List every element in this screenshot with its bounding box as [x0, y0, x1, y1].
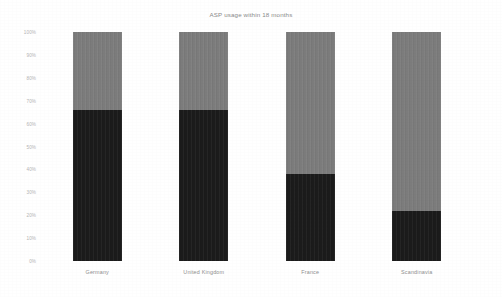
x-axis-category-label: Germany: [86, 269, 109, 275]
stacked-bar[interactable]: [73, 32, 122, 261]
x-axis-category-label: France: [301, 269, 319, 275]
chart-title: ASP usage within 18 months: [0, 11, 502, 18]
bar-segment-lower-segment[interactable]: [179, 110, 228, 261]
bar-segment-upper-segment[interactable]: [286, 32, 335, 174]
y-axis-tick-label: 40%: [27, 167, 37, 172]
y-axis-tick-label: 70%: [27, 98, 37, 103]
y-axis-tick-label: 60%: [27, 121, 37, 126]
y-axis-tick-label: 90%: [27, 52, 37, 57]
y-axis-tick-label: 80%: [27, 75, 37, 80]
bar-segment-upper-segment[interactable]: [392, 32, 441, 211]
y-axis: 100%90%80%70%60%50%40%30%20%10%0%: [0, 32, 40, 261]
bar-segment-upper-segment[interactable]: [179, 32, 228, 110]
bar-group[interactable]: [73, 32, 122, 261]
x-axis-category-label: United Kingdom: [183, 269, 224, 275]
bar-segment-lower-segment[interactable]: [73, 110, 122, 261]
y-axis-tick-label: 50%: [27, 144, 37, 149]
y-axis-tick-label: 0%: [29, 259, 36, 264]
bar-segment-lower-segment[interactable]: [392, 211, 441, 261]
x-axis-category-label: Scandinavia: [401, 269, 432, 275]
bar-segment-upper-segment[interactable]: [73, 32, 122, 110]
plot-area: [44, 32, 470, 261]
stacked-bar[interactable]: [286, 32, 335, 261]
y-axis-tick-label: 30%: [27, 190, 37, 195]
bar-segment-lower-segment[interactable]: [286, 174, 335, 261]
y-axis-tick-label: 100%: [24, 30, 36, 35]
y-axis-tick-label: 20%: [27, 213, 37, 218]
stacked-bar[interactable]: [179, 32, 228, 261]
chart-container: ASP usage within 18 months 100%90%80%70%…: [0, 0, 502, 297]
y-axis-tick-label: 10%: [27, 236, 37, 241]
stacked-bar[interactable]: [392, 32, 441, 261]
bar-group[interactable]: [286, 32, 335, 261]
bar-group[interactable]: [392, 32, 441, 261]
bar-group[interactable]: [179, 32, 228, 261]
